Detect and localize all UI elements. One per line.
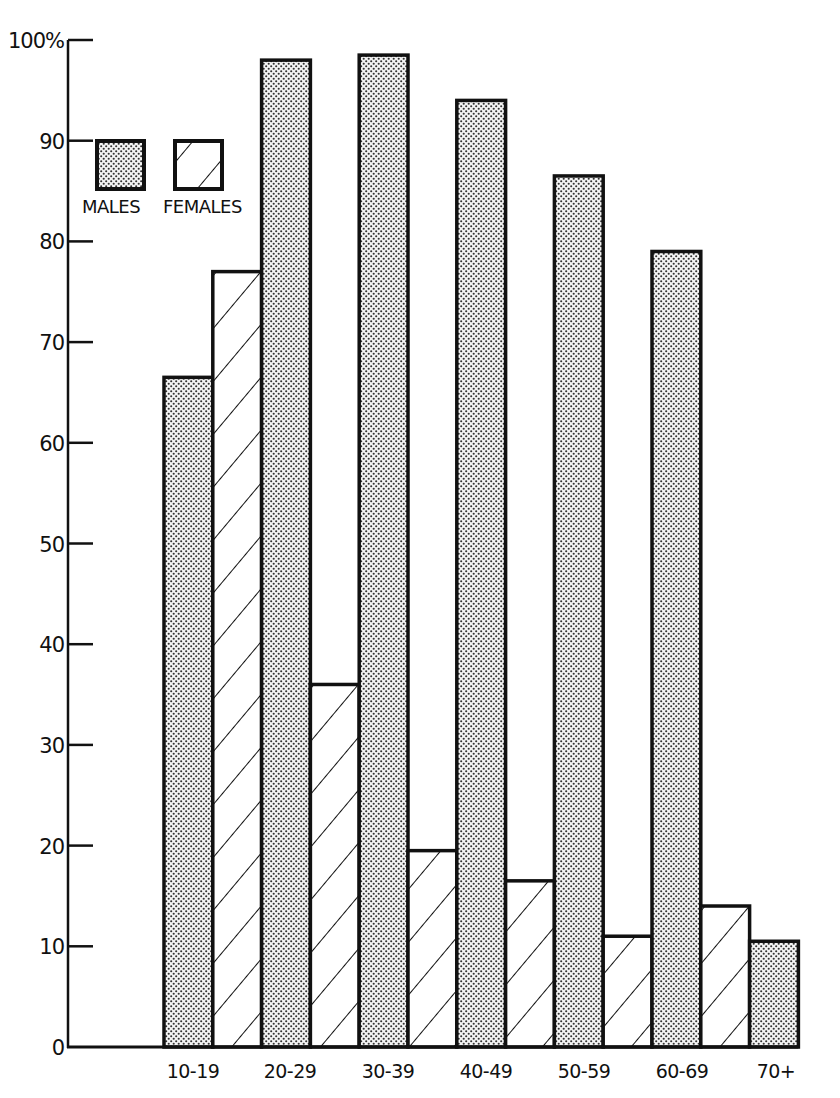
y-tick-label: 40 — [39, 633, 64, 657]
bar-males-20-29 — [262, 60, 311, 1047]
x-tick-label: 70+ — [757, 1060, 796, 1082]
bar-males-30-39 — [359, 55, 408, 1047]
y-tick-label: 60 — [39, 432, 64, 456]
bars — [164, 55, 798, 1047]
bar-females-50-59 — [603, 936, 652, 1047]
x-tick-label: 40-49 — [460, 1060, 513, 1082]
bar-females-30-39 — [408, 851, 457, 1047]
bar-females-20-29 — [310, 684, 359, 1047]
legend-swatch-males — [97, 141, 144, 189]
x-tick-label: 10-19 — [167, 1060, 220, 1082]
bar-males-40-49 — [457, 100, 506, 1047]
legend: MALES FEMALES — [82, 141, 242, 217]
y-tick-label: 10 — [39, 935, 64, 959]
legend-swatch-females — [175, 141, 222, 189]
x-tick-label: 60-69 — [656, 1060, 709, 1082]
x-tick-label: 30-39 — [362, 1060, 415, 1082]
y-axis: 0102030405060708090100% — [8, 29, 93, 1060]
bar-females-60-69 — [701, 906, 750, 1047]
y-tick-label: 30 — [39, 734, 64, 758]
bar-females-10-19 — [213, 272, 262, 1047]
y-tick-label: 80 — [39, 230, 64, 254]
bar-males-70+ — [750, 941, 799, 1047]
y-tick-label: 90 — [39, 130, 64, 154]
y-tick-label: 20 — [39, 835, 64, 859]
bar-females-40-49 — [506, 881, 555, 1047]
x-tick-label: 50-59 — [558, 1060, 611, 1082]
y-tick-label: 0 — [52, 1036, 64, 1060]
legend-label-females: FEMALES — [163, 196, 242, 217]
bar-chart: 0102030405060708090100% 10-1920-2930-394… — [0, 0, 840, 1098]
x-tick-label: 20-29 — [264, 1060, 317, 1082]
y-tick-label: 70 — [39, 331, 64, 355]
bar-males-10-19 — [164, 377, 213, 1047]
y-tick-label: 100% — [8, 29, 64, 53]
y-tick-label: 50 — [39, 533, 64, 557]
bar-males-50-59 — [554, 176, 603, 1047]
x-axis: 10-1920-2930-3940-4950-5960-6970+ — [67, 1047, 798, 1082]
legend-label-males: MALES — [82, 196, 140, 217]
bar-males-60-69 — [652, 251, 701, 1047]
